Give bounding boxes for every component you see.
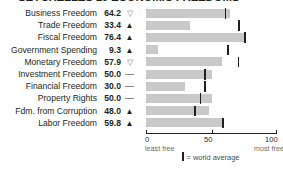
bar-track bbox=[146, 57, 277, 66]
value-bar bbox=[146, 70, 212, 79]
row-label: Government Spending bbox=[0, 45, 97, 56]
x-axis-frame bbox=[146, 130, 277, 134]
axis-label-least-free: least free bbox=[145, 144, 175, 153]
row-label: Investment Freedom bbox=[0, 69, 97, 80]
chart-row: Financial Freedom30.0— bbox=[0, 81, 283, 93]
value-bar bbox=[146, 45, 158, 54]
world-average-tick bbox=[227, 45, 229, 56]
legend-label: = world average bbox=[187, 153, 240, 162]
row-label: Labor Freedom bbox=[0, 118, 97, 129]
world-average-tick bbox=[222, 118, 224, 129]
bar-track bbox=[146, 33, 277, 42]
value-bar bbox=[146, 33, 246, 42]
row-value: 64.2 bbox=[97, 8, 121, 19]
chart-row: Government Spending9.3▲ bbox=[0, 45, 283, 57]
world-average-tick bbox=[238, 20, 240, 31]
bar-track bbox=[146, 70, 277, 79]
axis-label-most-free: most free bbox=[254, 144, 283, 153]
bar-track bbox=[146, 21, 277, 30]
x-tick-100: 100 bbox=[265, 135, 278, 144]
chart-row: Trade Freedom33.4▲ bbox=[0, 20, 283, 32]
x-tick-50: 50 bbox=[204, 135, 212, 144]
bar-track bbox=[146, 118, 277, 127]
world-average-tick bbox=[204, 81, 206, 92]
value-bar bbox=[146, 94, 212, 103]
row-value: 48.0 bbox=[97, 106, 121, 117]
trend-flat-icon: — bbox=[124, 81, 135, 92]
trend-up-icon: ▲ bbox=[124, 106, 135, 117]
economic-freedoms-chart: SEYCHELLES 10 ECONOMIC FREEDOMS Business… bbox=[0, 0, 283, 171]
bar-track bbox=[146, 106, 277, 115]
trend-up-icon: ▲ bbox=[124, 118, 135, 129]
world-average-tick bbox=[200, 93, 202, 104]
chart-title: SEYCHELLES 10 ECONOMIC FREEDOMS bbox=[18, 0, 268, 3]
trend-flat-icon: — bbox=[124, 69, 135, 80]
trend-down-icon: ▽ bbox=[124, 57, 135, 68]
value-bar bbox=[146, 82, 185, 91]
row-label: Business Freedom bbox=[0, 8, 97, 19]
bar-track bbox=[146, 45, 277, 54]
chart-row: Business Freedom64.2▽ bbox=[0, 8, 283, 20]
chart-row: Investment Freedom50.0— bbox=[0, 69, 283, 81]
trend-flat-icon: — bbox=[124, 93, 135, 104]
world-average-tick bbox=[225, 8, 227, 19]
row-label: Fiscal Freedom bbox=[0, 32, 97, 43]
row-label: Monetary Freedom bbox=[0, 57, 97, 68]
x-axis-midtick bbox=[212, 130, 213, 134]
x-tick-0: 0 bbox=[145, 135, 149, 144]
row-label: Fdm. from Corruption bbox=[0, 106, 97, 117]
world-average-marker-icon bbox=[182, 152, 184, 161]
trend-up-icon: ▲ bbox=[124, 20, 135, 31]
value-bar bbox=[146, 9, 230, 18]
row-label: Trade Freedom bbox=[0, 20, 97, 31]
bar-track bbox=[146, 82, 277, 91]
bar-track bbox=[146, 9, 277, 18]
legend: = world average bbox=[182, 152, 239, 163]
row-value: 50.0 bbox=[97, 69, 121, 80]
chart-row: Monetary Freedom57.9▽ bbox=[0, 57, 283, 69]
row-value: 76.4 bbox=[97, 32, 121, 43]
chart-row: Property Rights50.0— bbox=[0, 93, 283, 105]
row-label: Financial Freedom bbox=[0, 81, 97, 92]
chart-row: Fdm. from Corruption48.0▲ bbox=[0, 106, 283, 118]
row-value: 59.8 bbox=[97, 118, 121, 129]
world-average-tick bbox=[244, 32, 246, 43]
value-bar bbox=[146, 106, 209, 115]
value-bar bbox=[146, 57, 222, 66]
row-value: 33.4 bbox=[97, 20, 121, 31]
trend-up-icon: ▲ bbox=[124, 32, 135, 43]
trend-up-icon: ▲ bbox=[124, 45, 135, 56]
world-average-tick bbox=[238, 57, 240, 68]
row-value: 50.0 bbox=[97, 93, 121, 104]
bar-track bbox=[146, 94, 277, 103]
chart-row: Fiscal Freedom76.4▲ bbox=[0, 32, 283, 44]
row-value: 30.0 bbox=[97, 81, 121, 92]
row-value: 9.3 bbox=[97, 45, 121, 56]
value-bar bbox=[146, 21, 190, 30]
world-average-tick bbox=[194, 106, 196, 117]
chart-plot-area: Business Freedom64.2▽Trade Freedom33.4▲F… bbox=[0, 8, 283, 130]
chart-row: Labor Freedom59.8▲ bbox=[0, 118, 283, 130]
world-average-tick bbox=[204, 69, 206, 80]
trend-down-icon: ▽ bbox=[124, 8, 135, 19]
value-bar bbox=[146, 118, 224, 127]
row-label: Property Rights bbox=[0, 93, 97, 104]
row-value: 57.9 bbox=[97, 57, 121, 68]
